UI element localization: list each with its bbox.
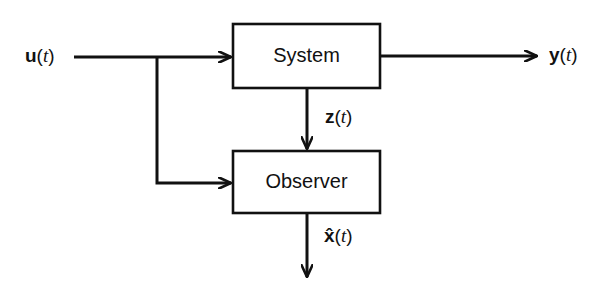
estimate-signal-label: x̂(t) [324, 225, 353, 247]
output-signal-label: y(t) [549, 44, 578, 66]
measurement-signal-label: z(t) [325, 106, 352, 128]
system-label: System [233, 44, 380, 67]
input-signal-label: u(t) [25, 45, 55, 67]
input-branch-arrow [157, 57, 231, 183]
observer-label: Observer [233, 170, 380, 193]
